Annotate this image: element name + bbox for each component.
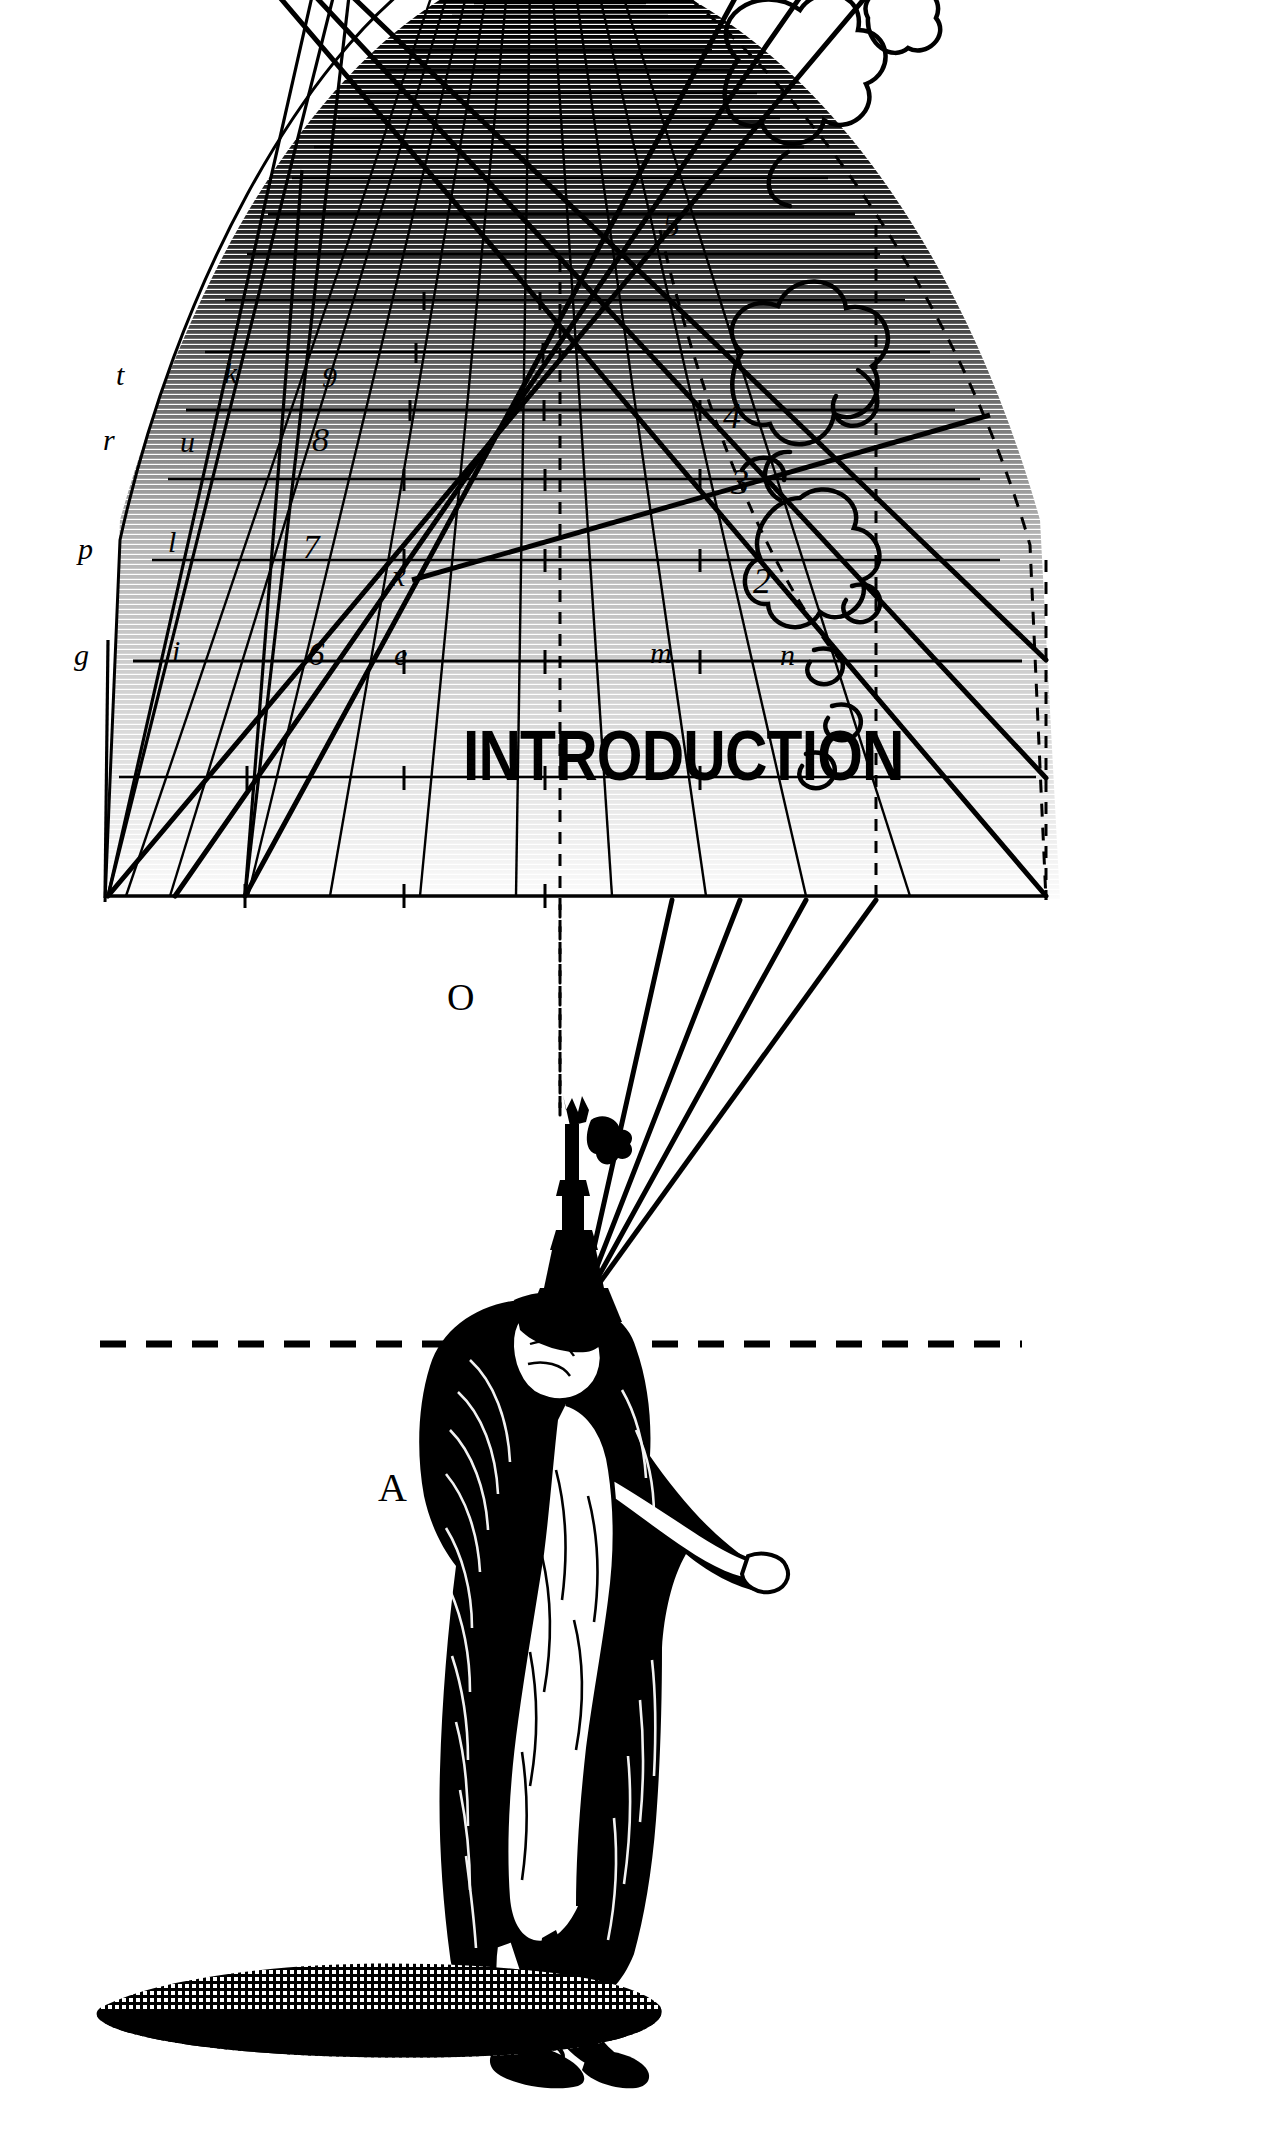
sight-rays-from-eye xyxy=(560,900,876,1310)
diagram-label-k: k xyxy=(224,358,237,388)
diagram-label-6: 6 xyxy=(308,638,325,671)
diagram-label-p: p xyxy=(78,534,93,564)
diagram-label-i: i xyxy=(172,636,180,666)
diagram-label-g: g xyxy=(74,640,89,670)
page-root: t k 9 r u 8 p l 7 x g i 6 e m n 5 4 3 2 … xyxy=(0,0,1276,2138)
diagram-label-9: 9 xyxy=(322,362,337,392)
diagram-label-u: u xyxy=(180,427,195,457)
diagram-label-7: 7 xyxy=(303,531,320,564)
diagram-label-l: l xyxy=(168,527,176,557)
diagram-label-5: 5 xyxy=(663,208,680,242)
diagram-label-8: 8 xyxy=(312,423,329,457)
diagram-label-3: 3 xyxy=(731,464,749,500)
diagram-label-r: r xyxy=(103,425,115,455)
diagram-label-2: 2 xyxy=(753,563,771,599)
diagram-label-n: n xyxy=(780,640,795,670)
page-title: INTRODUCTION xyxy=(463,721,904,791)
engraving-illustration xyxy=(0,0,1276,2138)
diagram-label-t: t xyxy=(116,360,124,390)
diagram-label-m: m xyxy=(650,638,672,668)
diagram-label-e: e xyxy=(394,640,407,670)
diagram-label-x: x xyxy=(392,561,405,591)
torch-finial xyxy=(526,1095,632,1322)
diagram-label-A: A xyxy=(378,1468,407,1508)
diagram-label-O: O xyxy=(447,978,474,1016)
diagram-label-4: 4 xyxy=(723,398,741,434)
